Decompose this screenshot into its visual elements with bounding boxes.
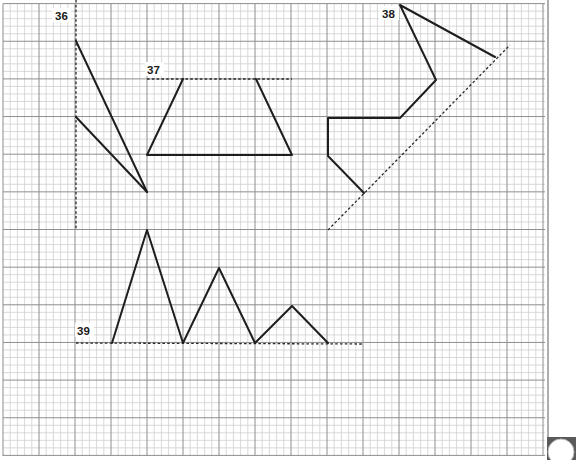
dashed-reference-line [328,45,510,230]
punch-hole-icon [548,439,574,460]
figure-label-38: 38 [382,8,395,20]
figure-outline [328,5,495,193]
graph-paper-sheet: 36 37 38 39 [0,0,576,460]
figure-label-39: 39 [77,325,90,337]
figure-outline [112,230,328,343]
figure-label-37: 37 [147,64,160,76]
figure-label-36: 36 [55,10,68,22]
grid-lines [3,4,545,456]
corner-tab [547,437,576,460]
figure-38: 38 [328,5,510,230]
